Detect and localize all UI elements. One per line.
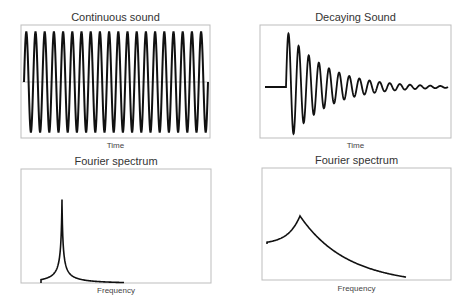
figure-canvas — [0, 0, 466, 304]
narrow-spectrum-curve — [41, 200, 124, 283]
continuous-waveform — [24, 32, 208, 131]
panel-title-spectrum-2: Fourier spectrum — [262, 154, 451, 166]
panel-title-continuous: Continuous sound — [21, 11, 210, 23]
panel-title-decaying: Decaying Sound — [260, 11, 451, 23]
panel-title-spectrum-1: Fourier spectrum — [21, 155, 211, 167]
x-axis-label-spectrum-1: Frequency — [21, 286, 211, 295]
x-axis-label-decaying: Time — [260, 141, 451, 150]
broad-spectrum-curve — [267, 216, 406, 277]
x-axis-label-continuous: Time — [21, 141, 210, 150]
x-axis-label-spectrum-2: Frequency — [262, 284, 451, 293]
spectrum-narrow-frame — [21, 169, 211, 283]
decaying-waveform — [265, 34, 448, 134]
